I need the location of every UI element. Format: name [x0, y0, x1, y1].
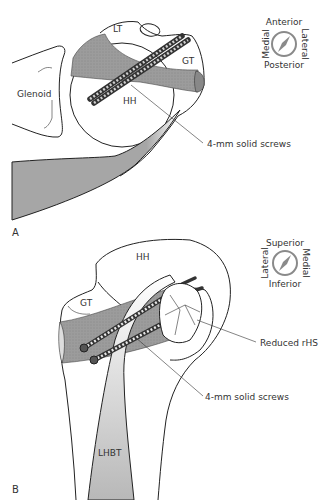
compass-b-top: Superior	[266, 238, 304, 248]
lhbt-label: LHBT	[98, 448, 122, 458]
figure-canvas: Glenoid LT GT HH 4-mm solid screws A Ant	[0, 0, 329, 500]
graft-band-a	[71, 34, 198, 92]
compass-b-bottom: Inferior	[269, 279, 302, 289]
screws-callout-b: 4-mm solid screws	[205, 392, 289, 402]
panel-a: Glenoid LT GT HH 4-mm solid screws A Ant	[12, 17, 310, 238]
reduced-rhs-shape	[159, 283, 201, 342]
humerus-outline-a	[100, 21, 204, 176]
callout-line-a	[131, 85, 203, 143]
callout-line-b	[135, 337, 203, 396]
reduced-rhs-callout: Reduced rHS	[260, 338, 318, 348]
panel-a-label: A	[12, 227, 19, 238]
callout-line-rhs	[197, 320, 256, 342]
gt-label-b: GT	[80, 298, 93, 308]
muscle-shape	[12, 110, 180, 220]
compass-a-bottom: Posterior	[264, 60, 304, 70]
compass-b: Superior Inferior Lateral Medial	[260, 238, 311, 289]
compass-b-right: Medial	[301, 248, 311, 278]
compass-a-left: Medial	[261, 29, 271, 59]
compass-a-right: Lateral	[300, 28, 310, 59]
hh-label-b: HH	[136, 252, 150, 262]
glenoid-label: Glenoid	[17, 89, 51, 99]
gt-label: GT	[182, 56, 195, 66]
compass-b-left: Lateral	[260, 247, 270, 278]
compass-a: Anterior Posterior Medial Lateral	[261, 17, 310, 70]
lt-label: LT	[113, 24, 123, 34]
panel-b-label: B	[12, 484, 19, 495]
screws-callout-a: 4-mm solid screws	[207, 139, 291, 149]
compass-a-top: Anterior	[266, 17, 303, 27]
panel-b: HH GT LHBT Reduced rHS	[12, 238, 318, 500]
hh-label-a: HH	[123, 96, 137, 106]
